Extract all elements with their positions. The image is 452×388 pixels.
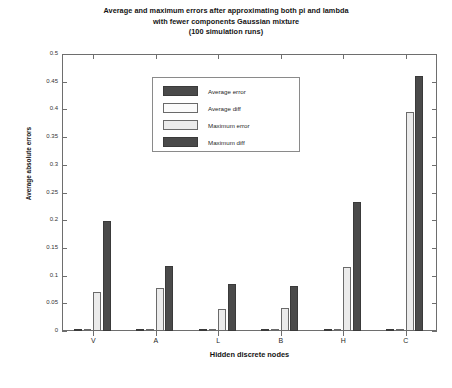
x-axis-tick-top (156, 54, 157, 59)
legend-label: Average error (208, 88, 246, 95)
x-axis-title: Hidden discrete nodes (62, 350, 437, 359)
x-axis-tick-top (281, 54, 282, 59)
chart-title-line-1: Average and maximum errors after approxi… (0, 6, 452, 17)
y-axis-tick (62, 276, 67, 277)
chart-legend: Average errorAverage diffMaximum errorMa… (152, 77, 300, 152)
y-axis-tick (62, 137, 67, 138)
y-axis-tick (62, 193, 67, 194)
legend-swatch-icon (163, 103, 198, 113)
x-axis-tick (156, 331, 157, 336)
y-axis-tick (62, 82, 67, 83)
y-axis-tick-right (432, 248, 437, 249)
y-axis-tick-right (432, 165, 437, 166)
legend-label: Maximum diff (208, 139, 245, 146)
legend-label: Maximum error (208, 122, 250, 129)
legend-item: Average diff (163, 100, 299, 116)
y-axis-tick-label: 0.05 (18, 299, 58, 305)
x-axis-tick-label: C (391, 337, 421, 344)
legend-label: Average diff (208, 105, 241, 112)
y-axis-tick-right (432, 331, 437, 332)
chart-title: Average and maximum errors after approxi… (0, 6, 452, 38)
y-axis-tick-right (432, 276, 437, 277)
x-axis-tick-label: A (141, 337, 171, 344)
chart-title-line-3: (100 simulation runs) (0, 27, 452, 38)
legend-swatch-icon (163, 86, 198, 96)
y-axis-tick-right (432, 303, 437, 304)
x-axis-tick (281, 331, 282, 336)
y-axis-tick-right (432, 220, 437, 221)
legend-swatch-icon (163, 137, 198, 147)
legend-item: Maximum diff (163, 134, 299, 150)
y-axis-tick-right (432, 109, 437, 110)
legend-swatch-icon (163, 120, 198, 130)
y-axis-tick (62, 331, 67, 332)
legend-item: Maximum error (163, 117, 299, 133)
y-axis-tick (62, 109, 67, 110)
legend-item: Average error (163, 83, 299, 99)
y-axis-tick-right (432, 137, 437, 138)
y-axis-tick-label: 0 (18, 327, 58, 333)
x-axis-tick-label: V (78, 337, 108, 344)
x-axis-tick-top (406, 54, 407, 59)
x-axis-tick-label: B (266, 337, 296, 344)
x-axis-tick-top (218, 54, 219, 59)
y-axis-tick (62, 54, 67, 55)
y-axis-tick (62, 220, 67, 221)
x-axis-tick-top (343, 54, 344, 59)
y-axis-tick-right (432, 54, 437, 55)
y-axis-tick-right (432, 193, 437, 194)
y-axis-tick (62, 165, 67, 166)
x-axis-tick-label: L (203, 337, 233, 344)
x-axis-tick-label: H (328, 337, 358, 344)
x-axis-tick-top (93, 54, 94, 59)
x-axis-tick (406, 331, 407, 336)
y-axis-tick-label: 0.5 (18, 50, 58, 56)
chart-title-line-2: with fewer components Gaussian mixture (0, 17, 452, 28)
y-axis-tick-right (432, 82, 437, 83)
x-axis-tick (218, 331, 219, 336)
y-axis-title: Average absolute errors (25, 74, 32, 254)
y-axis-tick (62, 248, 67, 249)
y-axis-tick-label: 0.1 (18, 272, 58, 278)
y-axis-tick (62, 303, 67, 304)
figure-container: Average and maximum errors after approxi… (0, 0, 452, 388)
x-axis-tick (93, 331, 94, 336)
x-axis-tick (343, 331, 344, 336)
